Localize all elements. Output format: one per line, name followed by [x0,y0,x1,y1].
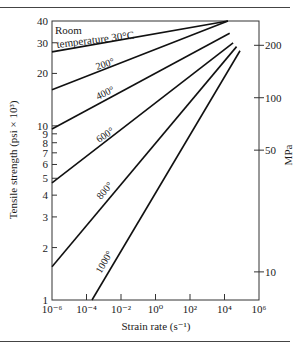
y-tick-label: 4 [43,189,49,201]
y-tick-label: 6 [43,158,49,170]
y-right-tick-label: 50 [265,144,277,156]
label-200: 200° [94,56,115,72]
series-lines [52,21,240,300]
x-tick-label: 10² [183,303,198,315]
x-tick-label: 10⁴ [217,303,232,315]
y-axis-left: 12345678910203040 [37,15,57,306]
series-line [52,43,233,183]
y-right-tick-label: 100 [265,92,282,104]
y-tick-label: 10 [37,120,49,132]
plot-frame [52,21,259,300]
x-axis: 10⁻⁶10⁻⁴10⁻²10⁰10²10⁴10⁶ [42,294,267,315]
y-tick-label: 2 [43,242,49,254]
y-axis-label: Tensile strength (psi × 10³) [7,100,20,219]
y-tick-label: 20 [37,67,49,79]
y-tick-label: 40 [37,15,49,27]
x-tick-label: 10⁻⁴ [76,303,97,315]
y-right-tick-label: 200 [265,39,282,51]
x-tick-label: 10⁻² [111,303,132,315]
y-axis-right: 1050100200 [254,39,282,278]
x-tick-label: 10⁶ [252,303,267,315]
label-800: 800° [94,180,115,202]
y-tick-label: 30 [37,37,49,49]
x-tick-label: 10⁰ [148,303,164,315]
x-tick-label: 10⁻⁶ [42,303,63,315]
series-line [92,51,240,300]
y-tick-label: 3 [43,211,49,223]
label-1000: 1000° [93,249,115,275]
y-tick-label: 5 [43,172,49,184]
label-room: Room [55,24,82,36]
y-axis-right-label: MPa [282,144,294,165]
label-400: 400° [94,84,116,102]
strain-rate-chart: 12345678910203040 1050100200 10⁻⁶10⁻⁴10⁻… [0,0,303,349]
x-axis-label: Strain rate (s⁻¹) [122,320,191,333]
y-right-tick-label: 10 [265,266,277,278]
